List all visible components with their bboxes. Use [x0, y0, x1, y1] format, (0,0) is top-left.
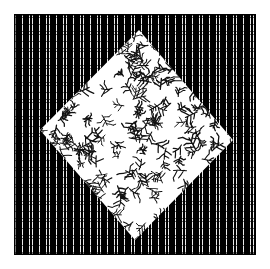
dark-grid-square [14, 14, 256, 255]
image-canvas [0, 0, 270, 269]
grid-mesh-pattern [14, 14, 256, 255]
